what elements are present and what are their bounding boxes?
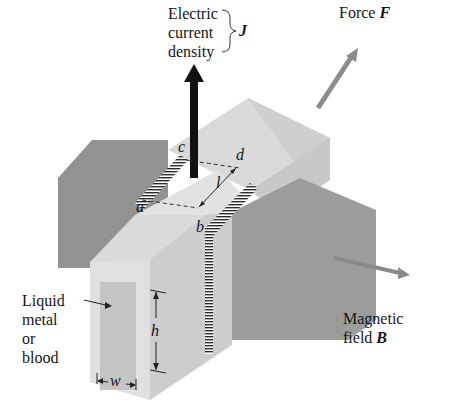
point-a-label: a bbox=[136, 198, 144, 216]
current-label-line-1: Electric bbox=[168, 4, 218, 23]
fluid-label-line-1: Liquid bbox=[22, 291, 65, 310]
field-symbol: B bbox=[376, 329, 387, 346]
force-symbol: F bbox=[379, 4, 390, 21]
point-d-label: d bbox=[236, 146, 244, 164]
fluid-label-line-2: metal bbox=[22, 310, 65, 329]
fluid-label: Liquid metal or blood bbox=[22, 291, 65, 367]
force-label: Force F bbox=[339, 4, 390, 22]
force-label-text: Force bbox=[339, 4, 375, 21]
mhd-diagram-canvas bbox=[0, 0, 452, 417]
brace-j bbox=[222, 10, 236, 52]
fluid-label-line-3: or bbox=[22, 329, 65, 348]
current-label-line-3: density bbox=[168, 42, 218, 61]
point-b-label: b bbox=[196, 218, 204, 236]
field-label-line-2: field B bbox=[343, 328, 403, 347]
current-density-symbol: J bbox=[239, 22, 247, 40]
length-l-label: l bbox=[216, 174, 220, 192]
field-label-text: field bbox=[343, 329, 372, 346]
current-label-line-2: current bbox=[168, 23, 218, 42]
force-arrow bbox=[318, 48, 358, 108]
magnetic-field-label: Magnetic field B bbox=[343, 309, 403, 347]
field-label-line-1: Magnetic bbox=[343, 309, 403, 328]
width-w-label: w bbox=[110, 372, 121, 390]
height-h-label: h bbox=[151, 322, 159, 340]
current-density-label: Electric current density bbox=[168, 4, 218, 61]
point-c-label: c bbox=[178, 138, 185, 156]
fluid-label-line-4: blood bbox=[22, 348, 65, 367]
